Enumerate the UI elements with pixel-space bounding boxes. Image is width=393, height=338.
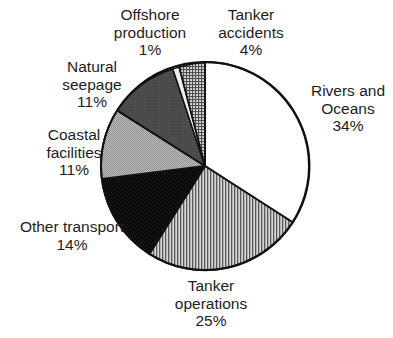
slice-label-line1: Natural [44,58,140,76]
slice-label-tanker-operations: Tanker operations 25% [152,277,270,330]
slice-label-line2: Oceans [302,100,393,118]
slice-label-value: 4% [205,41,297,59]
slice-label-line2: accidents [205,24,297,42]
slice-label-natural-seepage: Natural seepage 11% [44,58,140,111]
slice-label-rivers-and-oceans: Rivers and Oceans 34% [302,82,393,135]
pie-chart: Offshore production 1% Tanker accidents … [0,0,393,338]
slice-label-value: 11% [26,161,122,179]
slice-label-other-transport: Other transport 14% [4,218,140,253]
slice-label-coastal-facilities: Coastal facilities 11% [26,126,122,179]
slice-label-line1: Offshore [96,6,204,24]
slice-label-line2: operations [152,295,270,313]
slice-label-value: 11% [44,93,140,111]
slice-label-line1: Other transport [4,218,140,236]
slice-label-value: 25% [152,312,270,330]
slice-label-line1: Tanker [152,277,270,295]
slice-label-line1: Rivers and [302,82,393,100]
slice-label-line2: seepage [44,76,140,94]
slice-label-line1: Tanker [205,6,297,24]
slice-label-offshore-production: Offshore production 1% [96,6,204,59]
slice-label-tanker-accidents: Tanker accidents 4% [205,6,297,59]
slice-label-value: 1% [96,41,204,59]
slice-label-value: 14% [4,236,140,254]
slice-label-line1: Coastal [26,126,122,144]
slice-label-value: 34% [302,117,393,135]
slice-label-line2: facilities [26,144,122,162]
slice-label-line2: production [96,24,204,42]
